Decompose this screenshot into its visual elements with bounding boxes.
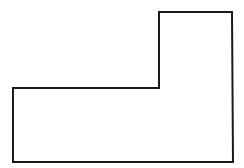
l-shape-outline <box>13 12 233 162</box>
diagram-canvas <box>0 0 244 168</box>
